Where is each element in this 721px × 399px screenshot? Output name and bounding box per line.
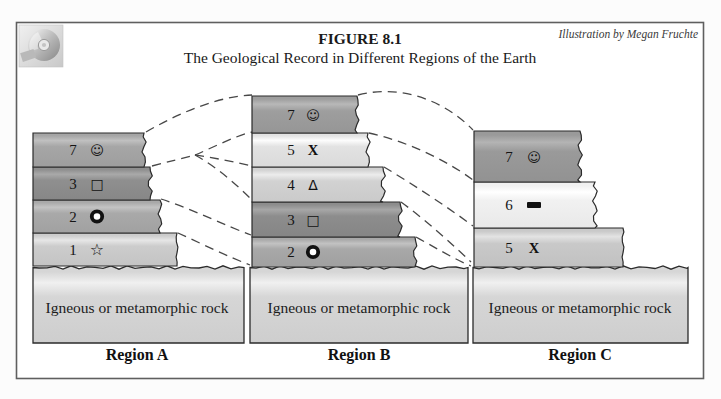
- smiley-icon: ☺: [306, 107, 320, 123]
- layer-number: 6: [505, 197, 513, 213]
- x-mark-icon: X: [529, 240, 540, 256]
- layer-number: 7: [505, 149, 513, 165]
- square-icon: □: [306, 212, 319, 228]
- layer-number: 2: [287, 244, 295, 260]
- ring-icon: [308, 247, 318, 257]
- geological-record-diagram: FIGURE 8.1 The Geological Record in Diff…: [0, 0, 721, 399]
- layer-number: 7: [287, 107, 295, 123]
- figure-label: FIGURE 8.1: [318, 30, 402, 47]
- layer-number: 3: [287, 212, 295, 228]
- star-icon: ☆: [90, 240, 104, 259]
- layer-number: 4: [287, 177, 295, 193]
- square-icon: □: [90, 176, 103, 192]
- layer-number: 5: [505, 240, 513, 256]
- cd-icon: [19, 25, 63, 67]
- triangle-icon: Δ: [308, 177, 318, 193]
- layer-number: 3: [69, 176, 77, 192]
- layer-2: [252, 237, 417, 267]
- ring-icon: [92, 211, 102, 221]
- bar-icon: [527, 202, 541, 208]
- smiley-icon: ☺: [90, 142, 104, 158]
- region-label: Region C: [548, 346, 612, 364]
- region-label: Region B: [328, 346, 391, 364]
- region-label: Region A: [106, 346, 169, 364]
- layer-number: 2: [69, 209, 77, 225]
- smiley-icon: ☺: [527, 149, 541, 165]
- basement-label: Igneous or metamorphic rock: [268, 299, 451, 316]
- layer-5: [474, 228, 624, 267]
- figure: FIGURE 8.1 The Geological Record in Diff…: [0, 0, 721, 399]
- basement-label: Igneous or metamorphic rock: [46, 299, 229, 316]
- layer-number: 1: [69, 242, 77, 258]
- layer-1: [33, 233, 178, 266]
- illustration-credit: Illustration by Megan Fruchte: [557, 28, 698, 41]
- layer-number: 7: [69, 142, 77, 158]
- layer-4: [252, 167, 385, 202]
- basement-label: Igneous or metamorphic rock: [489, 299, 672, 316]
- figure-title: The Geological Record in Different Regio…: [184, 49, 537, 66]
- layer-number: 5: [287, 142, 295, 158]
- x-mark-icon: X: [308, 142, 319, 158]
- layer-3: [252, 202, 402, 237]
